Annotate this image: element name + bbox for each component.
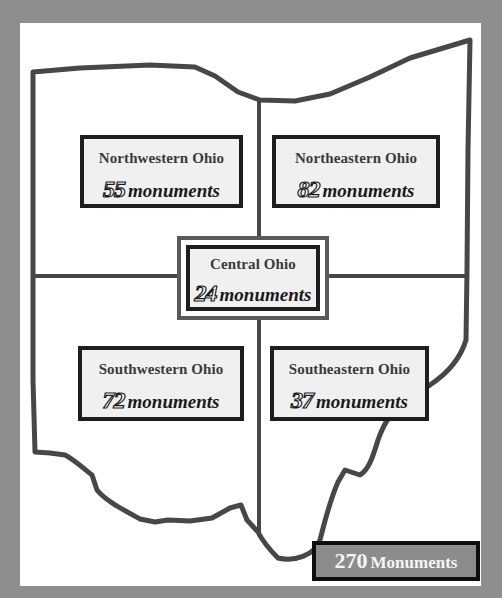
region-name: Northeastern Ohio: [276, 150, 436, 167]
region-southeastern[interactable]: Southeastern Ohio 37monuments: [270, 346, 429, 421]
region-count: 55monuments: [84, 176, 239, 203]
region-name: Northwestern Ohio: [84, 150, 239, 167]
count-label: monuments: [128, 180, 220, 201]
region-name: Central Ohio: [190, 256, 316, 273]
region-name: Southwestern Ohio: [82, 361, 240, 378]
count-number: 55: [103, 176, 125, 202]
count-number: 37: [291, 387, 313, 413]
region-northwestern[interactable]: Northwestern Ohio 55monuments: [80, 135, 243, 208]
total-count: 270: [335, 548, 368, 573]
region-central[interactable]: Central Ohio 24monuments: [177, 236, 329, 320]
region-count: 37monuments: [274, 387, 425, 414]
count-label: monuments: [316, 391, 408, 412]
total-label: Monuments: [371, 553, 458, 572]
region-count: 82monuments: [276, 176, 436, 203]
central-box: Central Ohio 24monuments: [186, 245, 320, 311]
count-number: 24: [195, 280, 217, 306]
region-count: 72monuments: [82, 387, 240, 414]
region-count: 24monuments: [190, 280, 316, 307]
region-northeastern[interactable]: Northeastern Ohio 82monuments: [272, 135, 440, 208]
count-label: monuments: [128, 391, 220, 412]
count-label: monuments: [323, 180, 415, 201]
count-number: 82: [298, 176, 320, 202]
region-name: Southeastern Ohio: [274, 361, 425, 378]
region-southwestern[interactable]: Southwestern Ohio 72monuments: [78, 346, 244, 421]
total-monuments-badge: 270Monuments: [312, 541, 480, 581]
count-label: monuments: [220, 284, 312, 305]
count-number: 72: [103, 387, 125, 413]
